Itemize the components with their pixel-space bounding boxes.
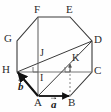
vertex-label-D: D bbox=[94, 34, 102, 45]
octagon-vector-diagram: A B C D E F G H I J K b a bbox=[0, 0, 111, 112]
vertex-label-F: F bbox=[34, 4, 40, 15]
vector-a-label: a bbox=[51, 99, 57, 110]
point-label-J: J bbox=[40, 48, 44, 58]
vector-a-label-b: b bbox=[18, 81, 24, 92]
chord-HD bbox=[17, 41, 92, 72]
right-angle-at-I bbox=[33, 67, 38, 72]
vector-b-letter: b bbox=[18, 80, 24, 92]
vertex-label-A: A bbox=[34, 97, 42, 108]
diagram-canvas bbox=[0, 0, 111, 112]
vertex-label-G: G bbox=[4, 33, 12, 44]
point-label-I: I bbox=[40, 73, 43, 83]
point-label-K: K bbox=[72, 53, 79, 63]
vertex-label-C: C bbox=[94, 65, 101, 76]
vertex-label-H: H bbox=[2, 64, 10, 75]
vertex-label-B: B bbox=[68, 97, 75, 108]
vector-a-letter: a bbox=[51, 98, 57, 110]
vertex-label-E: E bbox=[66, 4, 73, 15]
